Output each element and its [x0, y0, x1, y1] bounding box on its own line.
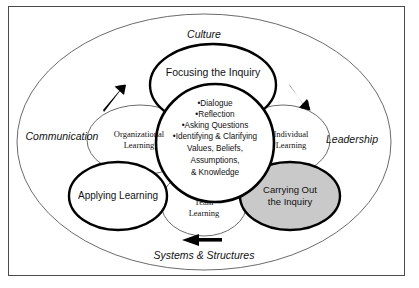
core-bullet-asking-questions: •Asking Questions: [182, 121, 249, 130]
label-leadership: Leadership: [326, 133, 378, 145]
label-team-learning-line2: Learning: [189, 208, 220, 218]
label-culture: Culture: [187, 28, 221, 40]
label-team-learning-line1: Team: [195, 197, 214, 207]
label-carrying-out-line2: the Inquiry: [268, 196, 313, 207]
label-applying-learning: Applying Learning: [78, 190, 158, 201]
core-bullet-reflection: •Reflection: [195, 110, 235, 119]
label-organizational-learning-line2: Learning: [124, 140, 155, 150]
label-individual-learning-line2: Learning: [276, 140, 307, 150]
learning-inquiry-diagram: Culture Communication Leadership Systems…: [0, 0, 419, 288]
core-text-assumptions: Assumptions,: [190, 156, 239, 165]
core-bullet-identifying-clarifying: •Identifying & Clarifying: [173, 132, 258, 141]
label-communication: Communication: [26, 130, 99, 142]
label-focusing-the-inquiry: Focusing the Inquiry: [166, 66, 261, 78]
label-organizational-learning-line1: Organizational: [114, 129, 165, 139]
label-carrying-out-line1: Carrying Out: [263, 184, 317, 195]
core-bullet-dialogue: •Dialogue: [197, 99, 233, 108]
core-text-knowledge: & Knowledge: [191, 168, 240, 177]
label-systems-structures: Systems & Structures: [154, 249, 256, 261]
core-text-values-beliefs: Values, Beliefs,: [187, 144, 243, 153]
label-individual-learning-line1: Individual: [274, 129, 310, 139]
figure-canvas: Culture Communication Leadership Systems…: [0, 0, 419, 288]
